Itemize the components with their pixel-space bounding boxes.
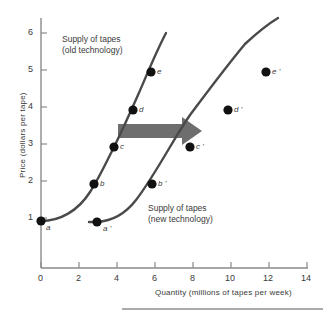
point-d [128, 105, 137, 114]
x-tick-label-0: 0 [38, 273, 43, 283]
point-label-c: c [120, 142, 124, 151]
x-tick-label-12: 12 [263, 273, 273, 283]
point-label-e-prime: e ' [272, 67, 280, 76]
point-a [36, 216, 45, 225]
point-label-a-prime: a ' [103, 224, 111, 233]
y-axis-label: Price (dollars per tape) [18, 92, 27, 178]
x-tick-label-8: 8 [190, 273, 195, 283]
y-axis-ticks [41, 33, 47, 218]
x-tick-label-10: 10 [225, 273, 235, 283]
y-tick-label-2: 2 [28, 175, 33, 185]
point-label-a: a [46, 223, 50, 232]
x-axis-ticks [41, 262, 307, 268]
x-tick-label-4: 4 [114, 273, 119, 283]
rightward-shift-arrow [118, 117, 202, 145]
point-b-prime [147, 179, 156, 188]
x-tick-label-14: 14 [301, 273, 311, 283]
old-technology-label-line1: Supply of tapes [62, 34, 121, 45]
point-a-prime [92, 217, 101, 226]
x-tick-label-2: 2 [76, 273, 81, 283]
point-c-prime [185, 142, 194, 151]
old-technology-label-line2: (old technology) [62, 45, 122, 56]
point-label-c-prime: c ' [196, 142, 204, 151]
point-e [146, 67, 155, 76]
new-technology-label-line2: (new technology) [148, 214, 213, 225]
x-axis-label: Quantity (millions of tapes per week) [155, 288, 292, 297]
point-label-d-prime: d ' [234, 105, 242, 114]
point-e-prime [261, 67, 270, 76]
y-tick-label-5: 5 [28, 64, 33, 74]
chart-canvas [0, 0, 323, 319]
point-label-e: e [157, 67, 161, 76]
point-d-prime [223, 105, 232, 114]
y-tick-label-3: 3 [28, 138, 33, 148]
point-label-b-prime: b ' [158, 179, 166, 188]
supply-curve-figure: 6 5 4 3 2 1 0 2 4 6 8 10 12 14 Price (do… [0, 0, 323, 319]
y-tick-label-6: 6 [28, 27, 33, 37]
new-technology-label-line1: Supply of tapes [148, 203, 207, 214]
point-b [89, 179, 98, 188]
point-label-d: d [139, 105, 143, 114]
x-tick-label-6: 6 [152, 273, 157, 283]
point-label-b: b [100, 179, 104, 188]
y-tick-label-1: 1 [28, 212, 33, 222]
data-points-old-technology [36, 67, 155, 225]
point-c [109, 142, 118, 151]
y-tick-label-4: 4 [28, 101, 33, 111]
